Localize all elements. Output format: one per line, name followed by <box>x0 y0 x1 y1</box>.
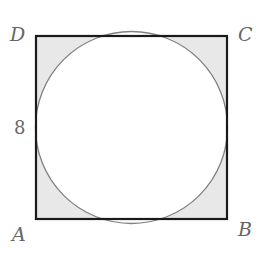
square-inscribed-circle-diagram: D C A B 8 <box>0 0 275 253</box>
vertex-label-d: D <box>9 23 25 45</box>
vertex-label-c: C <box>238 23 253 45</box>
shaded-region <box>36 36 227 219</box>
vertex-label-a: A <box>10 223 26 245</box>
side-length-label: 8 <box>14 117 25 138</box>
vertex-label-b: B <box>237 218 252 240</box>
